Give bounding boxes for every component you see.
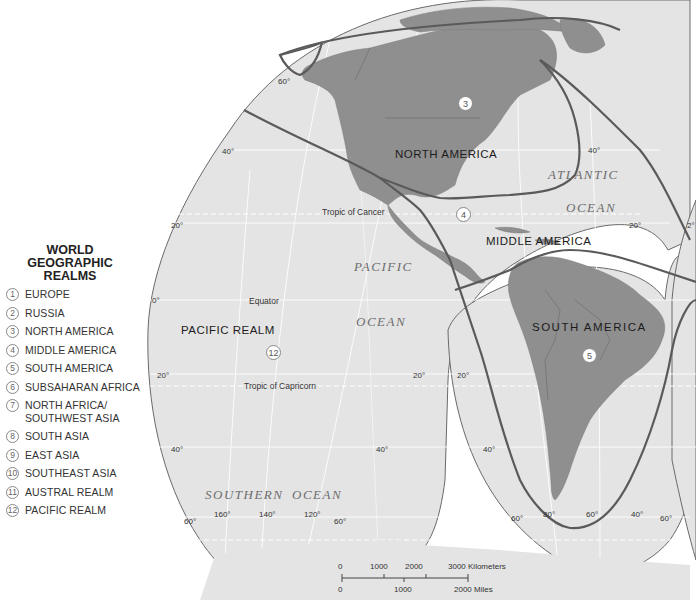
legend-item-southeast-asia: 10SOUTHEAST ASIA — [6, 467, 156, 486]
scale-bar: 0 1000 2000 3000 Kilometers 0 1000 2000 … — [338, 562, 528, 598]
legend-item-east-asia: 9EAST ASIA — [6, 449, 156, 468]
lat-label: 60° — [511, 514, 523, 523]
legend-label: AUSTRAL REALM — [25, 486, 113, 499]
lat-label: 20° — [457, 371, 469, 380]
lon-label: 140° — [259, 510, 276, 519]
legend-label: SOUTHEAST ASIA — [25, 467, 117, 480]
lat-label: 2° — [687, 221, 695, 230]
realm-number-icon: 5 — [6, 362, 19, 375]
lat-label: 60° — [184, 517, 196, 526]
realm-badge-south-america: 5 — [582, 348, 597, 363]
realm-number-icon: 2 — [6, 307, 19, 320]
legend-item-austral-realm: 11AUSTRAL REALM — [6, 486, 156, 505]
legend-item-russia: 2RUSSIA — [6, 307, 156, 326]
lat-label: 60° — [278, 77, 290, 86]
lon-label: 60° — [586, 510, 598, 519]
legend-title: WORLD GEOGRAPHIC REALMS — [6, 244, 134, 283]
realm-number-icon: 8 — [6, 430, 19, 443]
legend-label: NORTH AMERICA — [25, 325, 114, 338]
lat-label: 40° — [483, 445, 495, 454]
ocean-label-southern-2: OCEAN — [292, 487, 342, 503]
realm-number-icon: 1 — [6, 288, 19, 301]
realm-number-icon: 12 — [6, 504, 19, 517]
realm-number-icon: 11 — [6, 486, 19, 499]
legend-label: RUSSIA — [25, 307, 65, 320]
scale-mi-2000: 2000 Miles — [454, 585, 493, 594]
legend-item-south-asia: 8SOUTH ASIA — [6, 430, 156, 449]
lat-label: 20° — [413, 371, 425, 380]
legend-item-middle-america: 4MIDDLE AMERICA — [6, 344, 156, 363]
ocean-label-pacific: PACIFIC — [354, 259, 413, 275]
legend-label: NORTH AFRICA/ SOUTHWEST ASIA — [25, 399, 120, 425]
legend-item-north-america: 3NORTH AMERICA — [6, 325, 156, 344]
realm-label-south-america: SOUTH AMERICA — [532, 321, 647, 333]
realm-label-middle-america: MIDDLE AMERICA — [486, 235, 591, 247]
realm-badge-middle-america: 4 — [456, 207, 471, 222]
legend-item-europe: 1EUROPE — [6, 288, 156, 307]
realm-number-icon: 3 — [6, 325, 19, 338]
legend-label: SOUTH ASIA — [25, 430, 89, 443]
lat-label: 20° — [157, 371, 169, 380]
legend-label: PACIFIC REALM — [25, 504, 106, 517]
legend-label: SUBSAHARAN AFRICA — [25, 381, 140, 394]
lat-label: 40° — [171, 445, 183, 454]
lon-label: 80° — [543, 510, 555, 519]
legend: WORLD GEOGRAPHIC REALMS 1EUROPE 2RUSSIA … — [6, 244, 156, 523]
ocean-label-atlantic-2: OCEAN — [566, 200, 616, 216]
scale-bar-line — [338, 573, 488, 585]
legend-item-north-africa-sw-asia: 7NORTH AFRICA/ SOUTHWEST ASIA — [6, 399, 156, 430]
tropic-of-capricorn-label: Tropic of Capricorn — [244, 381, 316, 391]
ocean-label-atlantic: ATLANTIC — [548, 167, 619, 183]
tropic-of-cancer-label: Tropic of Cancer — [322, 207, 385, 217]
realm-number-icon: 9 — [6, 449, 19, 462]
legend-list: 1EUROPE 2RUSSIA 3NORTH AMERICA 4MIDDLE A… — [6, 288, 156, 523]
realm-label-pacific: PACIFIC REALM — [181, 324, 275, 336]
realm-label-north-america: NORTH AMERICA — [395, 148, 497, 160]
ocean-label-southern: SOUTHERN — [205, 487, 283, 503]
scale-mi-0: 0 — [338, 585, 342, 594]
legend-label: EUROPE — [25, 288, 70, 301]
lat-label: 60° — [660, 514, 672, 523]
lon-label: 160° — [214, 510, 231, 519]
realm-badge-north-america: 3 — [458, 96, 473, 111]
lat-label: 40° — [222, 147, 234, 156]
legend-item-subsaharan-africa: 6SUBSAHARAN AFRICA — [6, 381, 156, 400]
scale-km-1000: 1000 — [370, 562, 388, 571]
ocean-label-pacific-2: OCEAN — [356, 314, 406, 330]
lat-label: 40° — [588, 146, 600, 155]
lat-label: 20° — [171, 221, 183, 230]
legend-label: EAST ASIA — [25, 449, 79, 462]
scale-mi-1000: 1000 — [394, 585, 412, 594]
realm-number-icon: 4 — [6, 344, 19, 357]
legend-item-pacific-realm: 12PACIFIC REALM — [6, 504, 156, 523]
realm-number-icon: 10 — [6, 467, 19, 480]
legend-label: SOUTH AMERICA — [25, 362, 113, 375]
lat-label: 20° — [629, 221, 641, 230]
lon-label: 120° — [304, 510, 321, 519]
scale-km-2000: 2000 — [405, 562, 423, 571]
equator-label: Equator — [249, 296, 279, 306]
scale-km-3000: 3000 Kilometers — [448, 562, 506, 571]
lat-label: 40° — [376, 445, 388, 454]
legend-label: MIDDLE AMERICA — [25, 344, 116, 357]
legend-item-south-america: 5SOUTH AMERICA — [6, 362, 156, 381]
lat-label: 0° — [152, 296, 160, 305]
scale-km-0: 0 — [338, 562, 342, 571]
lon-label: 40° — [631, 510, 643, 519]
realm-number-icon: 6 — [6, 381, 19, 394]
realm-badge-pacific: 12 — [266, 345, 281, 360]
realm-number-icon: 7 — [6, 399, 19, 412]
lat-label: 60° — [334, 517, 346, 526]
